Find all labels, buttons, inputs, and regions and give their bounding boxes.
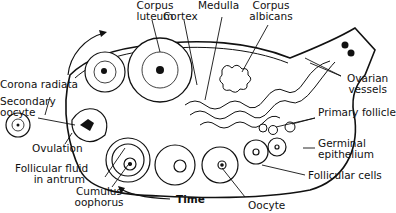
label-cumulus-oophorus: Cumulus oophorus (72, 186, 126, 208)
label-time: Time (176, 194, 205, 205)
label-medulla: Medulla (198, 0, 239, 11)
label-line: albicans (244, 11, 298, 22)
label-line: vessels (347, 84, 388, 95)
label-corpus-albicans: Corpus albicans (244, 0, 298, 22)
label-follicular-fluid: Follicular fluid in antrum (15, 163, 85, 185)
label-line: oophorus (72, 197, 126, 208)
label-line: epithelium (318, 149, 374, 160)
label-oocyte: Oocyte (248, 200, 285, 211)
label-line: in antrum (15, 174, 85, 185)
label-follicular-cells: Follicular cells (308, 170, 382, 181)
corpus-luteum-icon (128, 38, 192, 102)
label-primary-follicle: Primary follicle (318, 107, 396, 118)
label-ovarian-vessels: Ovarian vessels (347, 73, 388, 95)
corpus-albicans-icon (220, 65, 251, 92)
label-ovulation: Ovulation (32, 143, 83, 154)
label-cortex: Cortex (163, 11, 198, 22)
young-corpus-luteum-icon (85, 52, 125, 92)
label-secondary-oocyte: Secondary oocyte (0, 96, 56, 118)
label-germinal-epithelium: Germinal epithelium (318, 138, 374, 160)
label-line: oocyte (0, 107, 56, 118)
label-corona-radiata: Corona radiata (0, 79, 78, 90)
